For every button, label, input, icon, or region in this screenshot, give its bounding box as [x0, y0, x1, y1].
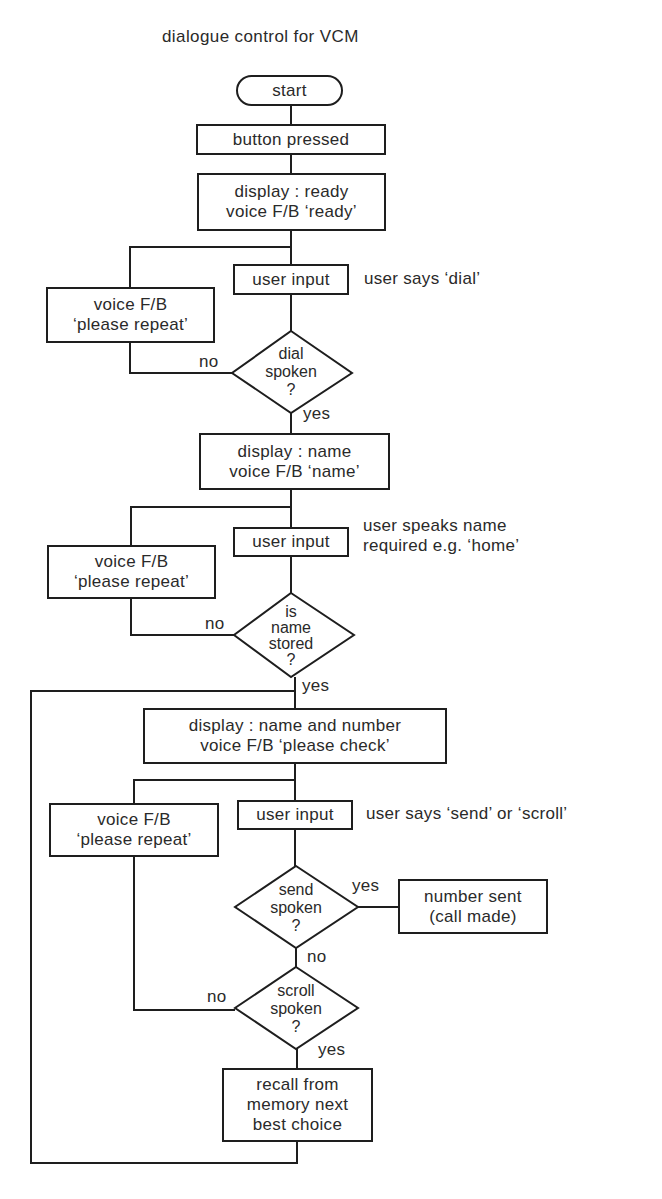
annotation-user-speaks-name-line-2: required e.g. ‘home’: [363, 536, 519, 556]
repeat-box-3: voice F/B ‘please repeat’: [49, 803, 219, 857]
edge-label-name-no: no: [205, 614, 225, 634]
repeat-1-line-1: voice F/B: [94, 295, 168, 315]
display-ready-box: display : ready voice F/B ‘ready’: [197, 173, 386, 231]
button-pressed-box: button pressed: [196, 124, 386, 155]
display-ready-line-2: voice F/B ‘ready’: [226, 202, 357, 222]
display-name-box: display : name voice F/B ‘name’: [199, 433, 390, 490]
user-input-box-2: user input: [233, 527, 349, 557]
name-stored-decision: is name stored ?: [253, 601, 329, 671]
user-input-label-1: user input: [252, 270, 330, 290]
start-label: start: [272, 81, 307, 101]
annotation-user-speaks-name-line-1: user speaks name: [363, 516, 519, 536]
send-spoken-line-1: send: [279, 881, 314, 899]
repeat-1-line-2: ‘please repeat’: [73, 315, 188, 335]
annotation-user-says-send-scroll: user says ‘send’ or ‘scroll’: [366, 804, 567, 824]
recall-line-3: best choice: [253, 1115, 342, 1135]
edge-label-scroll-yes: yes: [318, 1040, 345, 1060]
send-spoken-decision: send spoken ?: [256, 880, 336, 936]
edge-label-send-yes: yes: [352, 876, 379, 896]
send-spoken-line-3: ?: [292, 917, 301, 935]
scroll-spoken-decision: scroll spoken ?: [256, 981, 336, 1037]
repeat-2-line-1: voice F/B: [95, 552, 169, 572]
send-spoken-line-2: spoken: [270, 899, 322, 917]
display-check-box: display : name and number voice F/B ‘ple…: [143, 708, 447, 764]
edge-label-dial-no: no: [199, 352, 219, 372]
number-sent-line-2: (call made): [429, 907, 516, 927]
number-sent-line-1: number sent: [424, 887, 522, 907]
dial-spoken-line-2: spoken: [265, 363, 317, 381]
name-stored-line-3: stored: [269, 636, 313, 652]
user-input-box-1: user input: [233, 264, 349, 295]
edge-label-scroll-no: no: [207, 987, 227, 1007]
dial-spoken-line-3: ?: [287, 381, 296, 399]
recall-box: recall from memory next best choice: [222, 1068, 373, 1142]
repeat-3-line-1: voice F/B: [97, 810, 171, 830]
user-input-label-3: user input: [256, 805, 334, 825]
display-name-line-2: voice F/B ‘name’: [229, 462, 359, 482]
display-name-line-1: display : name: [238, 442, 352, 462]
scroll-spoken-line-3: ?: [292, 1018, 301, 1036]
edge-label-send-no: no: [307, 947, 327, 967]
user-input-label-2: user input: [252, 532, 330, 552]
diagram-title: dialogue control for VCM: [162, 27, 359, 47]
display-ready-line-1: display : ready: [234, 182, 348, 202]
edge-label-name-yes: yes: [302, 676, 329, 696]
name-stored-line-1: is: [285, 604, 297, 620]
scroll-spoken-line-1: scroll: [277, 982, 314, 1000]
recall-line-2: memory next: [247, 1095, 349, 1115]
repeat-box-1: voice F/B ‘please repeat’: [46, 287, 215, 343]
repeat-3-line-2: ‘please repeat’: [76, 830, 191, 850]
annotation-user-says-dial: user says ‘dial’: [364, 269, 480, 289]
dial-spoken-decision: dial spoken ?: [251, 343, 331, 401]
annotation-user-speaks-name: user speaks name required e.g. ‘home’: [363, 516, 519, 556]
display-check-line-1: display : name and number: [189, 716, 402, 736]
repeat-2-line-2: ‘please repeat’: [74, 572, 189, 592]
scroll-spoken-line-2: spoken: [270, 1000, 322, 1018]
edge-label-dial-yes: yes: [303, 404, 330, 424]
start-terminal: start: [236, 75, 343, 106]
dial-spoken-line-1: dial: [279, 345, 304, 363]
name-stored-line-4: ?: [287, 652, 296, 668]
user-input-box-3: user input: [237, 800, 353, 830]
display-check-line-2: voice F/B ‘please check’: [200, 736, 390, 756]
repeat-box-2: voice F/B ‘please repeat’: [47, 545, 216, 599]
button-pressed-label: button pressed: [233, 130, 350, 150]
recall-line-1: recall from: [256, 1075, 339, 1095]
name-stored-line-2: name: [271, 620, 311, 636]
number-sent-box: number sent (call made): [398, 879, 548, 934]
